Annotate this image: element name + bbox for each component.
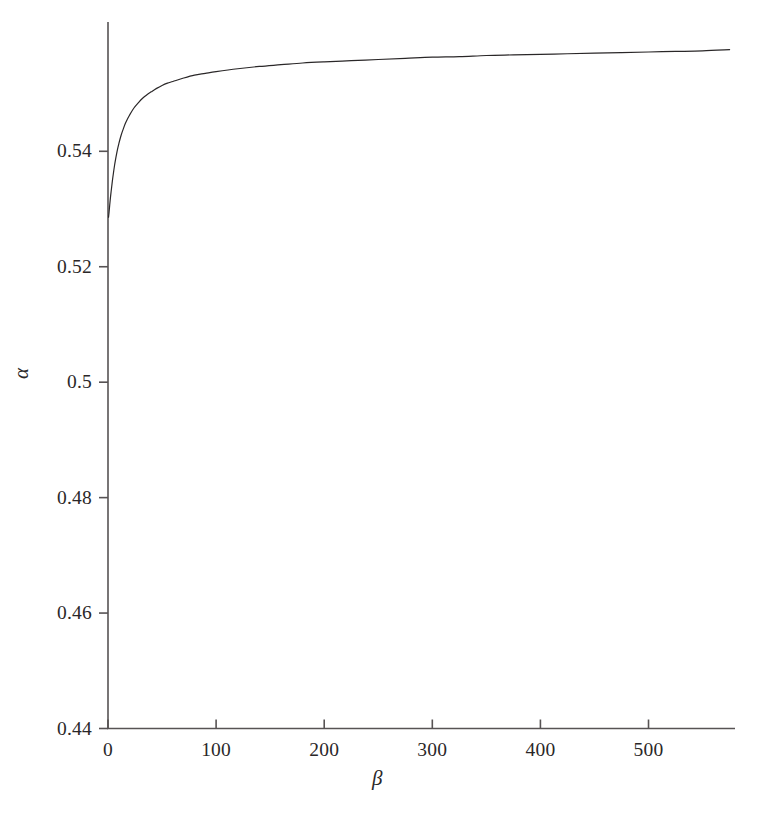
y-axis-title: α (9, 368, 34, 379)
y-tick-label: 0.54 (0, 140, 92, 162)
y-tick-label: 0.48 (0, 487, 92, 509)
x-tick-label: 100 (201, 739, 231, 761)
x-tick-marks (108, 720, 649, 729)
x-tick-label: 400 (525, 739, 555, 761)
y-tick-label: 0.46 (0, 602, 92, 624)
x-tick-label: 200 (309, 739, 339, 761)
data-series-line (109, 50, 730, 217)
x-tick-label: 300 (417, 739, 447, 761)
y-tick-label: 0.44 (0, 718, 92, 740)
chart-figure: 0.440.460.480.50.520.54 0100200300400500… (0, 0, 764, 822)
plot-area (0, 0, 764, 822)
x-tick-label: 500 (634, 739, 664, 761)
y-tick-marks (99, 151, 108, 728)
y-tick-label: 0.52 (0, 256, 92, 278)
x-tick-label: 0 (103, 739, 113, 761)
x-axis-title: β (372, 766, 382, 791)
